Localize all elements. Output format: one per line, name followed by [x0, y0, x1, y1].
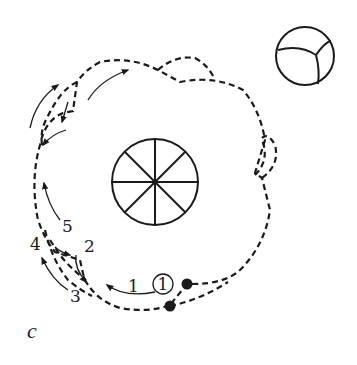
end-dot [165, 301, 176, 312]
step-label-1: 1 [128, 276, 139, 296]
orbit-diagram: 1 1 2 3 4 5 c [0, 0, 357, 365]
start-dot [182, 279, 193, 290]
segmented-sphere-icon [276, 27, 334, 85]
step-label-5: 5 [62, 216, 73, 236]
circled-label-1: 1 [158, 274, 169, 294]
step-label-4: 4 [30, 234, 41, 254]
central-wheel-icon [112, 139, 198, 225]
panel-label: c [27, 318, 37, 343]
step-label-2: 2 [84, 236, 95, 256]
step-label-3: 3 [70, 286, 81, 306]
